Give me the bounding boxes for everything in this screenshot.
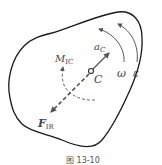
figure-caption: 图 13-10 (66, 156, 100, 165)
center-label: C (94, 73, 103, 86)
acceleration-label: aC (94, 41, 106, 54)
center-point (89, 69, 94, 74)
angular-velocity-label: ω (117, 67, 126, 80)
angular-acceleration-label: ε (133, 67, 139, 80)
angular-acceleration-arc (118, 24, 137, 62)
acceleration-arrow (93, 53, 109, 69)
rigid-body-diagram: C aC MIC FIR ω ε 图 13-10 (0, 0, 162, 165)
inertia-force-label: FIR (37, 117, 55, 131)
inertia-moment-label: MIC (54, 53, 73, 66)
